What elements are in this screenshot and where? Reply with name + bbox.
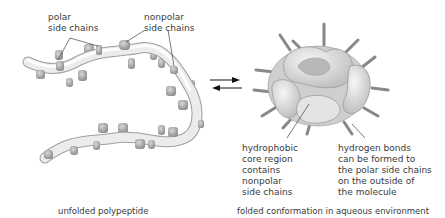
folded-protein [254,24,388,138]
hydrogen-bonds-label: hydrogen bonds can be formed to the pola… [338,143,432,198]
unfolded-polypeptide [28,30,204,159]
folded-caption: folded conformation in aqueous environme… [237,206,429,216]
equilibrium-arrows [210,77,242,91]
polar-side-chains-label: polar side chains [48,12,98,34]
hydrophobic-core-label: hydrophobic core region contains nonpola… [242,143,298,198]
nonpolar-side-chains-label: nonpolar side chains [144,12,194,34]
unfolded-caption: unfolded polypeptide [58,206,148,216]
